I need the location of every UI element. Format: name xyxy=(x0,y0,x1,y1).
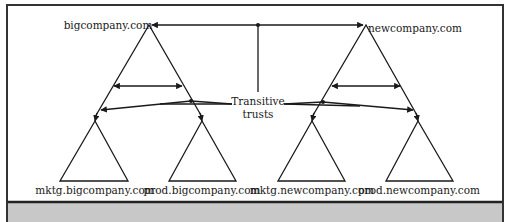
callout-label-line1: Transitive xyxy=(231,95,285,107)
right-transitive-dot xyxy=(321,100,325,104)
trust-diagram: bigcompany.com newcompany.com Transitive… xyxy=(0,0,511,222)
left-transitive-dot xyxy=(189,99,193,103)
root-label-bigcompany: bigcompany.com xyxy=(64,19,153,31)
footer-band xyxy=(7,202,503,222)
child-label-mktg-newcompany: mktg.newcompany.com xyxy=(250,184,375,196)
root-label-newcompany: newcompany.com xyxy=(368,22,462,34)
callout-label-line2: trusts xyxy=(243,108,274,120)
child-label-prod-bigcompany: prod.bigcompany.com xyxy=(144,184,261,196)
child-label-prod-newcompany: prod.newcompany.com xyxy=(358,184,480,196)
root-trust-dot xyxy=(256,23,260,27)
child-label-mktg-bigcompany: mktg.bigcompany.com xyxy=(35,184,154,196)
